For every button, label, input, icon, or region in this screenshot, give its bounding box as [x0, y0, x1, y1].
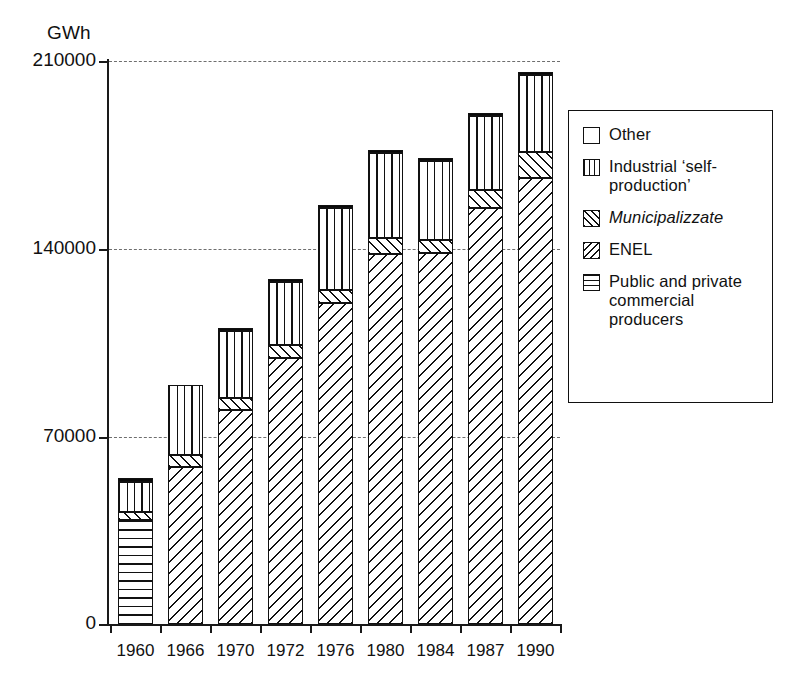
bar-segment-1972-back-diagonal-hatch	[268, 358, 303, 624]
bar-1980	[368, 61, 403, 624]
bar-segment-1984-forward-diagonal-hatch	[418, 240, 453, 253]
y-tick-label-70000: 70000	[43, 426, 96, 445]
legend: OtherIndustrial ‘self-production’Municip…	[568, 110, 773, 403]
bar-segment-1970-back-diagonal-hatch	[218, 410, 253, 624]
bar-segment-1987-vertical-lines	[468, 116, 503, 190]
bar-segment-1987-solid-black	[468, 113, 503, 116]
bar-segment-1972-vertical-lines	[268, 282, 303, 345]
legend-item-vertical-lines: Industrial ‘self-production’	[583, 157, 762, 195]
chart-figure: GWh 210000 140000 70000 0 19601966197019…	[0, 0, 792, 696]
x-axis-line	[107, 624, 560, 626]
bar-segment-1976-back-diagonal-hatch	[318, 303, 353, 624]
legend-swatch-icon-back-diagonal-hatch	[583, 242, 600, 259]
x-tick-label-1987: 1987	[461, 641, 511, 661]
bar-segment-1966-back-diagonal-hatch	[168, 467, 203, 624]
x-tick-label-1990: 1990	[511, 641, 561, 661]
bar-segment-1990-solid-black	[518, 72, 553, 75]
x-tick-label-1984: 1984	[411, 641, 461, 661]
x-tick-mark-1972	[260, 624, 262, 633]
y-axis-line	[107, 59, 109, 626]
bar-segment-1972-solid-black	[268, 279, 303, 282]
legend-label: ENEL	[609, 240, 653, 259]
x-tick-mark-1960	[110, 624, 112, 633]
x-tick-mark-end	[560, 624, 562, 633]
x-tick-mark-1987	[460, 624, 462, 633]
y-tick-label-140000: 140000	[33, 238, 96, 257]
bar-segment-1984-vertical-lines	[418, 161, 453, 240]
bar-segment-1976-solid-black	[318, 205, 353, 208]
bar-segment-1984-solid-black	[418, 158, 453, 161]
legend-item-back-diagonal-hatch: ENEL	[583, 240, 762, 259]
x-tick-mark-1976	[310, 624, 312, 633]
y-tick-mark-70000	[99, 437, 109, 439]
bar-segment-1987-back-diagonal-hatch	[468, 208, 503, 624]
y-tick-mark-210000	[99, 61, 109, 63]
x-tick-mark-1966	[160, 624, 162, 633]
y-tick-label-210000: 210000	[33, 50, 96, 69]
x-tick-label-1966: 1966	[161, 641, 211, 661]
legend-swatch-icon-horizontal-lines	[583, 274, 600, 291]
bar-segment-1972-forward-diagonal-hatch	[268, 345, 303, 358]
bar-segment-1980-solid-black	[368, 150, 403, 153]
legend-label: Industrial ‘self-production’	[609, 157, 762, 195]
legend-swatch-icon-vertical-lines	[583, 159, 600, 176]
bar-segment-1980-forward-diagonal-hatch	[368, 238, 403, 254]
bar-segment-1960-vertical-lines	[118, 482, 153, 512]
bar-segment-1976-vertical-lines	[318, 208, 353, 290]
x-tick-mark-1984	[410, 624, 412, 633]
bar-segment-1984-back-diagonal-hatch	[418, 253, 453, 624]
bar-1960	[118, 61, 153, 624]
x-tick-label-1972: 1972	[261, 641, 311, 661]
bar-segment-1980-vertical-lines	[368, 153, 403, 238]
x-tick-label-1980: 1980	[361, 641, 411, 661]
legend-item-solid-black: Other	[583, 125, 762, 144]
bar-1966	[168, 61, 203, 624]
x-tick-label-1960: 1960	[111, 641, 161, 661]
bar-1976	[318, 61, 353, 624]
bar-segment-1990-vertical-lines	[518, 75, 553, 152]
y-tick-mark-140000	[99, 249, 109, 251]
bar-1972	[268, 61, 303, 624]
bar-segment-1976-forward-diagonal-hatch	[318, 290, 353, 303]
x-tick-label-1976: 1976	[311, 641, 361, 661]
bar-segment-1987-forward-diagonal-hatch	[468, 190, 503, 208]
bar-1990	[518, 61, 553, 624]
legend-label: Other	[609, 125, 651, 144]
bar-segment-1980-back-diagonal-hatch	[368, 254, 403, 624]
x-tick-mark-1970	[210, 624, 212, 633]
legend-label: Municipalizzate	[609, 208, 723, 227]
bar-segment-1966-forward-diagonal-hatch	[168, 455, 203, 467]
bar-segment-1990-forward-diagonal-hatch	[518, 152, 553, 178]
bar-segment-1960-horizontal-lines	[118, 520, 153, 624]
x-tick-mark-1980	[360, 624, 362, 633]
legend-swatch-icon-forward-diagonal-hatch	[583, 210, 600, 227]
bar-segment-1960-solid-black	[118, 478, 153, 482]
y-tick-label-0: 0	[85, 613, 96, 632]
y-axis-unit-label: GWh	[47, 22, 91, 44]
bar-segment-1990-back-diagonal-hatch	[518, 178, 553, 624]
bar-1987	[468, 61, 503, 624]
bar-1970	[218, 61, 253, 624]
bar-segment-1966-vertical-lines	[168, 385, 203, 455]
legend-item-horizontal-lines: Public and private commercial producers	[583, 272, 762, 329]
legend-item-forward-diagonal-hatch: Municipalizzate	[583, 208, 762, 227]
legend-label: Public and private commercial producers	[609, 272, 762, 329]
bar-segment-1970-forward-diagonal-hatch	[218, 398, 253, 410]
x-tick-label-1970: 1970	[211, 641, 261, 661]
bar-segment-1970-vertical-lines	[218, 331, 253, 398]
bar-segment-1970-solid-black	[218, 328, 253, 331]
bar-segment-1960-forward-diagonal-hatch	[118, 512, 153, 520]
legend-swatch-icon-solid-black	[583, 127, 600, 144]
x-tick-mark-1990	[510, 624, 512, 633]
bar-1984	[418, 61, 453, 624]
